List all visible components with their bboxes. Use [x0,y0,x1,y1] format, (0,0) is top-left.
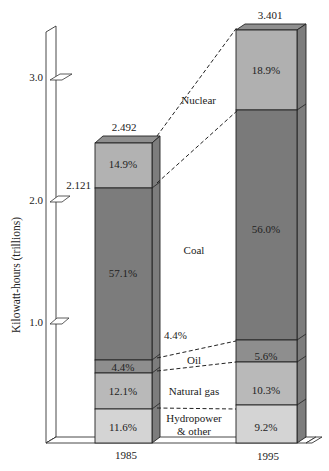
category-coal: Coal [184,244,205,256]
label-1985-oil: 4.4% [112,361,135,373]
category-hydro-line2: & other [177,425,211,437]
y-axis [46,26,72,443]
category-nuclear: Nuclear [181,94,216,106]
category-hydro-line1: Hydropower [166,412,222,424]
category-natural-gas: Natural gas [169,385,219,397]
y-axis-title: Kilowatt-hours (trillions) [10,217,23,333]
total-1985: 2.492 [112,121,137,133]
label-1995-nuclear: 18.9% [252,64,280,76]
connector-lines [157,26,238,409]
label-1985-nuclear: 14.9% [109,158,137,170]
stacked-bar-chart: 3.0 2.0 1.0 Kilowatt-hours (trillions) [0,0,329,471]
label-1985-coal: 57.1% [109,267,137,279]
label-1995-coal: 56.0% [252,223,280,235]
category-oil: Oil [187,354,201,366]
y-tick-3: 3.0 [29,71,43,83]
total-1995: 3.401 [258,9,283,21]
label-1995-hydro: 9.2% [255,421,278,433]
y-tick-1: 1.0 [29,316,43,328]
label-1985-gas: 12.1% [109,385,137,397]
label-1995-gas: 10.3% [252,384,280,396]
x-label-1995: 1995 [257,450,280,462]
x-label-1985: 1985 [115,449,138,461]
label-1995-oil: 5.6% [255,350,278,362]
subtotal-1985: 2.121 [66,179,91,191]
label-1985-hydro: 11.6% [109,421,137,433]
y-tick-2: 2.0 [29,194,43,206]
label-1985-oil-outside: 4.4% [164,329,187,341]
